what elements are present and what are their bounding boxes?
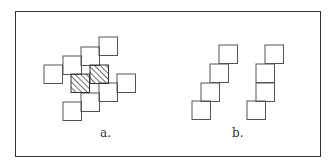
hatched-square bbox=[71, 74, 90, 93]
square bbox=[63, 56, 82, 75]
panel-b-squares bbox=[192, 45, 284, 120]
square bbox=[117, 74, 136, 93]
square bbox=[44, 65, 63, 84]
square bbox=[192, 101, 211, 120]
square bbox=[210, 64, 229, 83]
hatched-square bbox=[90, 65, 109, 84]
square bbox=[256, 64, 275, 83]
square bbox=[247, 101, 266, 120]
panel-a-squares bbox=[44, 37, 136, 121]
square bbox=[81, 93, 100, 112]
panel-a-label: a. bbox=[100, 126, 111, 140]
square bbox=[219, 45, 238, 64]
square bbox=[265, 45, 284, 64]
square bbox=[63, 102, 82, 121]
square bbox=[99, 37, 118, 56]
panel-b-label: b. bbox=[232, 126, 244, 140]
square bbox=[256, 83, 275, 102]
tile-diagram bbox=[0, 0, 336, 166]
square bbox=[201, 83, 220, 102]
square bbox=[81, 47, 100, 66]
square bbox=[99, 83, 118, 102]
